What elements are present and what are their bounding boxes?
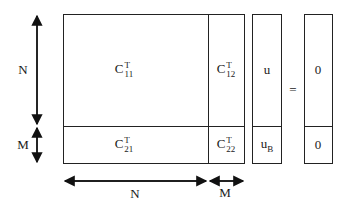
zero-top: 0	[315, 62, 322, 78]
zero-bottom: 0	[315, 137, 322, 153]
matrix-horizontal-divider	[63, 126, 245, 127]
matrix-vertical-divider	[208, 14, 209, 164]
dim-label-m-vertical: M	[17, 137, 29, 153]
vector-u-top: u	[264, 62, 271, 78]
dim-label-m-horizontal: M	[219, 185, 231, 201]
block-c21: CT21	[115, 136, 134, 154]
vector-u-b: uB	[261, 136, 274, 154]
dim-label-n-horizontal: N	[130, 186, 139, 202]
block-c22: CT22	[217, 136, 236, 154]
block-c11: CT11	[115, 61, 133, 79]
vector-u-divider	[252, 126, 282, 127]
dim-label-n-vertical: N	[18, 62, 27, 78]
vector-zero-divider	[304, 126, 333, 127]
block-c12: CT12	[217, 61, 236, 79]
equals-sign: =	[289, 82, 296, 98]
